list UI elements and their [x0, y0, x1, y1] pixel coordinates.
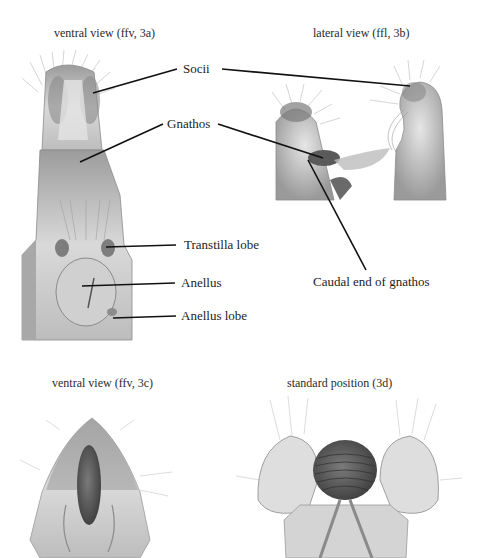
- leader-caudal-end: [308, 160, 366, 270]
- caption-3a: ventral view (ffv, 3a): [54, 26, 155, 41]
- specimen-3c: [20, 418, 172, 558]
- caption-3c: ventral view (ffv, 3c): [52, 376, 153, 391]
- caption-3b: lateral view (ffl, 3b): [313, 26, 409, 41]
- caption-3d: standard position (3d): [287, 376, 392, 391]
- leader-socii-left: [93, 69, 177, 93]
- label-transtilla-lobe: Transtilla lobe: [184, 237, 259, 253]
- label-anellus-lobe: Anellus lobe: [181, 308, 247, 324]
- specimen-3a: [22, 50, 132, 340]
- label-anellus: Anellus: [181, 275, 221, 291]
- specimen-3d: [236, 396, 462, 558]
- label-gnathos: Gnathos: [167, 116, 210, 132]
- label-caudal-end-of-gnathos: Caudal end of gnathos: [313, 274, 430, 290]
- label-socii: Socii: [183, 61, 210, 77]
- leader-socii-right: [222, 69, 410, 86]
